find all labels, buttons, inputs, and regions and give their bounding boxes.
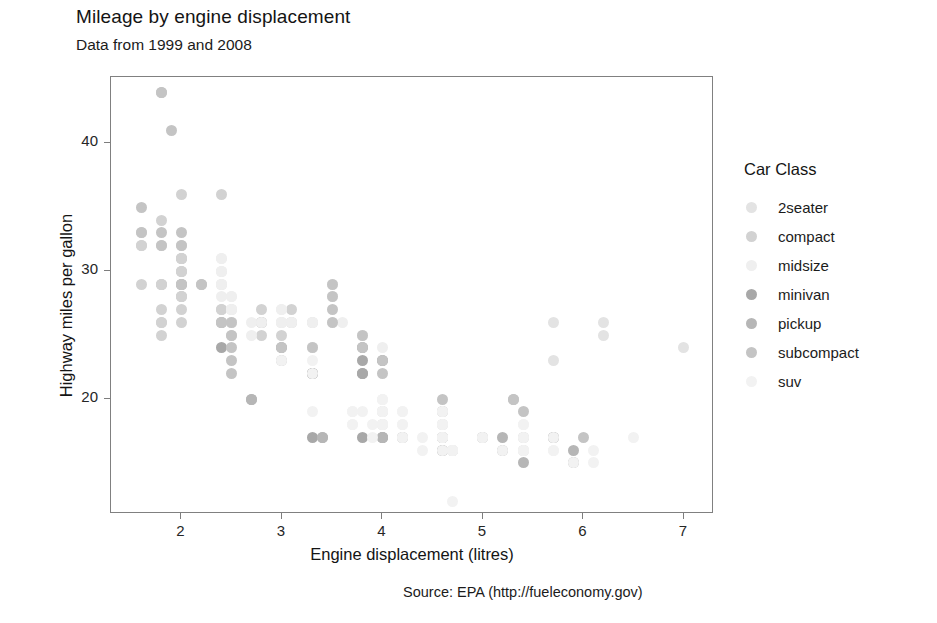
scatter-point [246, 394, 257, 405]
scatter-point [176, 266, 187, 277]
scatter-point [518, 406, 529, 417]
legend-item-label: midsize [778, 257, 829, 274]
x-tick-mark [180, 513, 181, 519]
legend-item-label: subcompact [778, 344, 859, 361]
scatter-point [437, 419, 448, 430]
legend-key-dot-icon [738, 195, 764, 221]
legend-item-2seater[interactable]: 2seater [738, 193, 928, 222]
scatter-point [347, 406, 358, 417]
scatter-point [568, 445, 579, 456]
scatter-point [347, 419, 358, 430]
scatter-point [286, 317, 297, 328]
scatter-point [136, 279, 147, 290]
y-tick-mark [104, 398, 110, 399]
scatter-point [588, 457, 599, 468]
scatter-point [246, 317, 257, 328]
scatter-point [276, 355, 287, 366]
scatter-point [588, 445, 599, 456]
scatter-point [518, 419, 529, 430]
scatter-point [518, 432, 529, 443]
scatter-point [317, 432, 328, 443]
scatter-point [497, 432, 508, 443]
scatter-point [367, 432, 378, 443]
scatter-point [327, 317, 338, 328]
scatter-point [327, 279, 338, 290]
scatter-point [156, 279, 167, 290]
scatter-point [136, 202, 147, 213]
scatter-point [578, 432, 589, 443]
x-tick-mark [683, 513, 684, 519]
scatter-point [156, 215, 167, 226]
scatter-point [136, 240, 147, 251]
legend-item-label: minivan [778, 286, 830, 303]
scatter-point [226, 330, 237, 341]
scatter-point [628, 432, 639, 443]
scatter-point [357, 406, 368, 417]
scatter-point [226, 304, 237, 315]
legend-item-suv[interactable]: suv [738, 367, 928, 396]
scatter-point [518, 445, 529, 456]
plot-panel [110, 76, 713, 513]
scatter-point [176, 279, 187, 290]
chart-title: Mileage by engine displacement [76, 6, 350, 28]
scatter-point [307, 355, 318, 366]
legend-items: 2seatercompactmidsizeminivanpickupsubcom… [738, 193, 928, 396]
legend-item-compact[interactable]: compact [738, 222, 928, 251]
x-tick-mark [582, 513, 583, 519]
scatter-point [548, 445, 559, 456]
scatter-point [447, 496, 458, 507]
scatter-point [477, 432, 488, 443]
scatter-point [437, 394, 448, 405]
scatter-point [216, 266, 227, 277]
scatter-point [176, 240, 187, 251]
scatter-points-layer [111, 77, 712, 512]
y-tick-label: 30 [58, 260, 98, 277]
scatter-point [176, 304, 187, 315]
x-tick-label: 4 [361, 522, 401, 539]
scatter-point [497, 445, 508, 456]
scatter-point [156, 330, 167, 341]
scatter-point [246, 330, 257, 341]
scatter-point [377, 355, 388, 366]
chart-caption: Source: EPA (http://fueleconomy.gov) [403, 584, 643, 600]
legend-item-midsize[interactable]: midsize [738, 251, 928, 280]
legend-item-minivan[interactable]: minivan [738, 280, 928, 309]
scatter-point [417, 445, 428, 456]
y-tick-mark [104, 270, 110, 271]
x-tick-mark [281, 513, 282, 519]
scatter-point [216, 253, 227, 264]
legend-item-label: suv [778, 373, 801, 390]
scatter-point [377, 342, 388, 353]
scatter-point [508, 394, 519, 405]
y-tick-label: 40 [58, 132, 98, 149]
scatter-point [437, 432, 448, 443]
x-tick-label: 5 [462, 522, 502, 539]
scatter-point [397, 432, 408, 443]
scatter-point [327, 291, 338, 302]
legend-key-dot-icon [738, 340, 764, 366]
scatter-point [357, 330, 368, 341]
scatter-point [397, 419, 408, 430]
legend-item-label: 2seater [778, 199, 828, 216]
scatter-point [447, 445, 458, 456]
chart-subtitle: Data from 1999 and 2008 [76, 36, 252, 54]
scatter-point [216, 279, 227, 290]
x-tick-mark [381, 513, 382, 519]
legend-item-pickup[interactable]: pickup [738, 309, 928, 338]
scatter-point [156, 317, 167, 328]
x-tick-mark [482, 513, 483, 519]
legend-key-dot-icon [738, 253, 764, 279]
scatter-point [327, 304, 338, 315]
scatter-point [256, 317, 267, 328]
scatter-point [307, 342, 318, 353]
scatter-point [337, 317, 348, 328]
scatter-point [226, 368, 237, 379]
legend-title: Car Class [744, 160, 928, 179]
scatter-point [166, 125, 177, 136]
legend-item-label: compact [778, 228, 835, 245]
legend-item-subcompact[interactable]: subcompact [738, 338, 928, 367]
scatter-point [276, 330, 287, 341]
scatter-point [156, 304, 167, 315]
scatter-point [256, 304, 267, 315]
legend-key-dot-icon [738, 282, 764, 308]
